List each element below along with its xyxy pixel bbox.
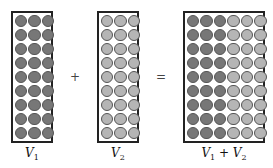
particle <box>214 113 227 126</box>
particle <box>227 57 240 70</box>
particle <box>227 127 240 140</box>
particle <box>15 85 28 98</box>
particle <box>241 43 254 56</box>
particle <box>227 113 240 126</box>
particle <box>101 99 114 112</box>
particle <box>42 113 55 126</box>
particle <box>254 57 267 70</box>
particle <box>254 99 267 112</box>
particle <box>200 127 213 140</box>
particle <box>214 99 227 112</box>
particle <box>101 15 114 28</box>
particle <box>114 99 127 112</box>
particle <box>227 29 240 42</box>
particle <box>28 113 41 126</box>
particle <box>254 113 267 126</box>
particle <box>128 127 141 140</box>
particle <box>15 71 28 84</box>
particle <box>200 71 213 84</box>
particle <box>200 43 213 56</box>
particle <box>200 29 213 42</box>
box-v2 <box>97 11 139 143</box>
particle <box>187 85 200 98</box>
particle <box>101 29 114 42</box>
particle <box>42 99 55 112</box>
particle <box>241 99 254 112</box>
particle <box>128 57 141 70</box>
particle <box>254 85 267 98</box>
particle <box>28 99 41 112</box>
plus-sign: + <box>70 70 80 84</box>
particle <box>15 29 28 42</box>
particle <box>200 85 213 98</box>
particle <box>114 71 127 84</box>
particle <box>15 57 28 70</box>
particle <box>214 43 227 56</box>
particle <box>254 29 267 42</box>
particle <box>241 29 254 42</box>
particle <box>187 43 200 56</box>
box-v1 <box>11 11 53 143</box>
particle <box>241 57 254 70</box>
particle <box>254 43 267 56</box>
particle <box>15 113 28 126</box>
box-v1-plus-v2 <box>183 11 265 143</box>
particle <box>187 99 200 112</box>
particle <box>214 15 227 28</box>
particle <box>241 127 254 140</box>
particle <box>128 113 141 126</box>
particle <box>128 71 141 84</box>
particle <box>15 15 28 28</box>
particle <box>28 127 41 140</box>
equals-sign: = <box>156 70 166 84</box>
particle <box>200 57 213 70</box>
particle <box>42 85 55 98</box>
particle <box>241 15 254 28</box>
particle <box>214 29 227 42</box>
particle <box>128 99 141 112</box>
particle <box>101 71 114 84</box>
particle <box>227 85 240 98</box>
particle <box>101 57 114 70</box>
particle <box>28 43 41 56</box>
particle <box>241 113 254 126</box>
particle <box>42 71 55 84</box>
particle <box>227 15 240 28</box>
label-v1: V1 <box>11 146 53 162</box>
particle <box>227 99 240 112</box>
particle <box>114 57 127 70</box>
particle <box>200 15 213 28</box>
particle <box>214 127 227 140</box>
particle <box>114 113 127 126</box>
particle <box>254 71 267 84</box>
particle <box>15 99 28 112</box>
particle <box>187 127 200 140</box>
particle <box>214 71 227 84</box>
particle <box>241 71 254 84</box>
particle <box>227 43 240 56</box>
particle <box>128 85 141 98</box>
particle <box>28 15 41 28</box>
particle <box>101 127 114 140</box>
particle <box>15 127 28 140</box>
particle <box>15 43 28 56</box>
particle <box>200 99 213 112</box>
particle <box>42 127 55 140</box>
particle <box>227 71 240 84</box>
particle <box>187 15 200 28</box>
label-v2: V2 <box>97 146 139 162</box>
particle <box>114 85 127 98</box>
particle <box>187 113 200 126</box>
particle <box>28 71 41 84</box>
particle <box>214 57 227 70</box>
particle <box>187 71 200 84</box>
particle <box>114 15 127 28</box>
particle <box>254 15 267 28</box>
particle <box>28 29 41 42</box>
label-v1-plus-v2: V1 + V2 <box>183 146 265 162</box>
particle <box>28 57 41 70</box>
particle <box>254 127 267 140</box>
particle <box>187 57 200 70</box>
particle <box>114 29 127 42</box>
particle <box>42 29 55 42</box>
